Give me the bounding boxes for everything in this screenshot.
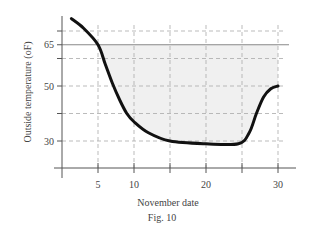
figure-caption: Fig. 10 xyxy=(148,212,176,223)
temperature-chart: 5102030305065 Outside temperature (oF) N… xyxy=(0,0,310,231)
y-axis-title: Outside temperature (oF) xyxy=(22,41,34,142)
y-tick-label: 30 xyxy=(44,136,54,147)
x-tick-label: 5 xyxy=(96,179,101,190)
x-tick-label: 10 xyxy=(129,179,139,190)
x-tick-label: 30 xyxy=(273,179,283,190)
x-axis-title: November date xyxy=(137,197,199,208)
y-tick-label: 65 xyxy=(44,39,54,50)
x-tick-label: 20 xyxy=(201,179,211,190)
y-tick-label: 50 xyxy=(44,81,54,92)
